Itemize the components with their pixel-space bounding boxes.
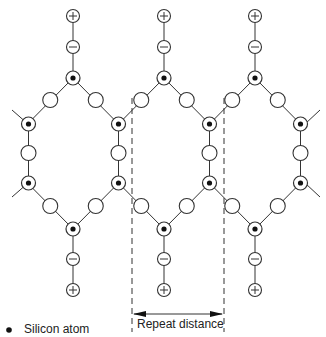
- silicon-atom-dot: [26, 121, 31, 126]
- bond-electron-circle-icon: [134, 199, 149, 214]
- legend-silicon-atom-label: Silicon atom: [24, 322, 89, 336]
- bond-electron-circle-icon: [88, 199, 103, 214]
- silicon-atom-dot: [252, 226, 257, 231]
- silicon-atom-dot: [70, 75, 75, 80]
- silicon-atom-dot: [161, 226, 166, 231]
- bond-electron-circle-icon: [88, 93, 103, 108]
- silicon-atom-dot: [252, 75, 257, 80]
- bond-electron-circle-icon: [179, 93, 194, 108]
- silicon-atom-dot: [70, 226, 75, 231]
- silicon-atom-dot: [207, 180, 212, 185]
- silicon-atom-dot: [298, 121, 303, 126]
- bond-electron-circle-icon: [270, 199, 285, 214]
- silicon-atom-dot: [26, 180, 31, 185]
- bond-electron-circle-icon: [111, 146, 126, 161]
- silicon-atom-dot: [207, 121, 212, 126]
- repeat-distance-label: Repeat distance: [137, 317, 224, 331]
- bond-electron-circle-icon: [202, 146, 217, 161]
- bond-electron-circle-icon: [179, 199, 194, 214]
- bond-electron-circle-icon: [43, 199, 58, 214]
- silicon-atom-dot: [161, 75, 166, 80]
- silicon-atom-dot: [116, 121, 121, 126]
- legend-silicon-dot-icon: [6, 327, 12, 333]
- bond-electron-circle-icon: [134, 93, 149, 108]
- silicon-atom-dot: [298, 180, 303, 185]
- bond-electron-circle-icon: [293, 146, 308, 161]
- bond-electron-circle-icon: [21, 146, 36, 161]
- bond-electron-circle-icon: [225, 199, 240, 214]
- silicon-atom-dot: [116, 180, 121, 185]
- silicon-lattice-diagram: [0, 0, 326, 337]
- bond-electron-circle-icon: [270, 93, 285, 108]
- bond-electron-circle-icon: [225, 93, 240, 108]
- bond-electron-circle-icon: [43, 93, 58, 108]
